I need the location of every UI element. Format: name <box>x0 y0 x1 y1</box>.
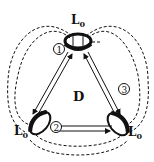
coil-2 <box>26 108 55 138</box>
marker-3: 3 <box>119 84 130 95</box>
coil-1 <box>65 34 91 49</box>
svg-text:1: 1 <box>57 45 63 55</box>
marker-1: 1 <box>54 44 65 55</box>
coil-3-label: L0 <box>128 125 142 141</box>
coil-1-label: L0 <box>71 13 85 29</box>
coil-triangle-diagram: L0 L0 L0 D 1 2 3 <box>0 0 154 162</box>
svg-text:3: 3 <box>122 85 128 95</box>
svg-text:2: 2 <box>54 123 60 133</box>
center-label-d: D <box>73 89 84 104</box>
coil-2-label: L0 <box>14 124 28 140</box>
marker-2: 2 <box>51 122 62 133</box>
